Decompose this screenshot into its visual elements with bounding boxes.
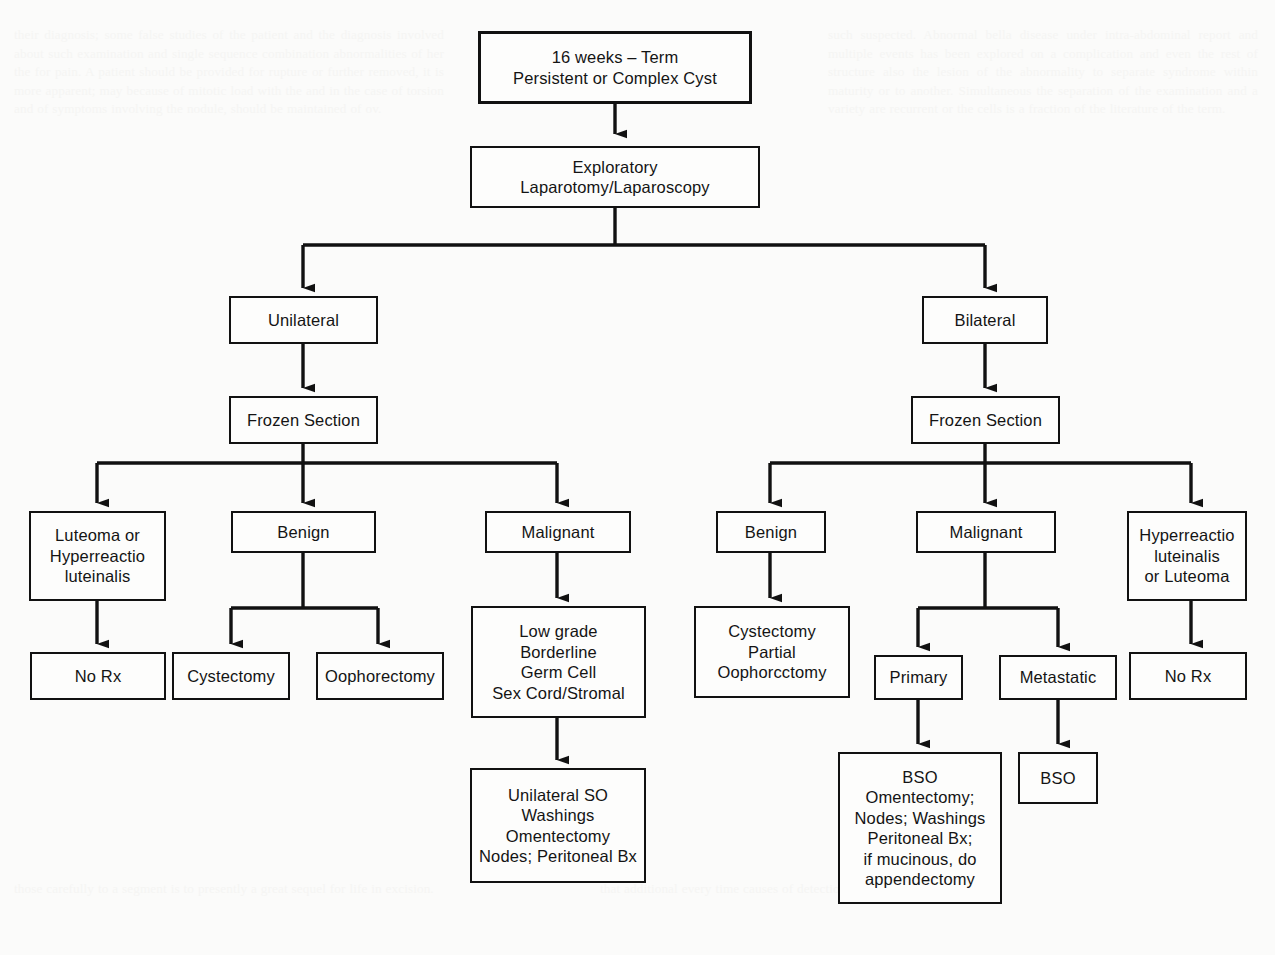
node-frozen-section-right[interactable]: Frozen Section — [911, 396, 1060, 444]
node-start-label: 16 weeks – Term Persistent or Complex Cy… — [509, 47, 721, 88]
node-no-rx-right[interactable]: No Rx — [1129, 652, 1247, 700]
node-luteoma-hyperreactio-left-label: Luteoma or Hyperreactio luteinalis — [46, 525, 149, 587]
node-hyperreactio-luteoma-right[interactable]: Hyperreactio luteinalis or Luteoma — [1127, 511, 1247, 601]
node-exploratory-surgery-label: Exploratory Laparotomy/Laparoscopy — [516, 157, 714, 198]
node-primary-label: Primary — [886, 667, 952, 688]
node-malignant-left[interactable]: Malignant — [485, 511, 631, 553]
node-bso[interactable]: BSO — [1018, 752, 1098, 804]
node-benign-right-label: Benign — [741, 522, 801, 543]
node-unilateral-so-staging-label: Unilateral SO Washings Omentectomy Nodes… — [475, 785, 641, 867]
node-primary[interactable]: Primary — [874, 655, 963, 700]
node-frozen-section-left-label: Frozen Section — [243, 410, 364, 431]
node-frozen-section-right-label: Frozen Section — [925, 410, 1046, 431]
node-benign-left-label: Benign — [273, 522, 333, 543]
node-no-rx-left-label: No Rx — [71, 666, 126, 687]
node-bso-label: BSO — [1036, 768, 1079, 789]
node-metastatic[interactable]: Metastatic — [999, 655, 1117, 700]
node-metastatic-label: Metastatic — [1016, 667, 1101, 688]
node-unilateral-so-staging[interactable]: Unilateral SO Washings Omentectomy Nodes… — [470, 768, 646, 883]
node-oophorectomy-label: Oophorectomy — [321, 666, 439, 687]
node-benign-right[interactable]: Benign — [716, 511, 826, 553]
node-luteoma-hyperreactio-left[interactable]: Luteoma or Hyperreactio luteinalis — [29, 511, 166, 601]
node-no-rx-left[interactable]: No Rx — [30, 652, 166, 700]
node-hyperreactio-luteoma-right-label: Hyperreactio luteinalis or Luteoma — [1135, 525, 1238, 587]
node-bso-staging-label: BSO Omentectomy; Nodes; Washings Periton… — [851, 767, 990, 890]
node-cystectomy[interactable]: Cystectomy — [172, 652, 290, 700]
node-low-grade-histology[interactable]: Low grade Borderline Germ Cell Sex Cord/… — [471, 606, 646, 718]
flowchart-nodes: 16 weeks – Term Persistent or Complex Cy… — [0, 0, 1275, 955]
node-unilateral-label: Unilateral — [264, 310, 343, 331]
node-bilateral-label: Bilateral — [951, 310, 1020, 331]
node-malignant-left-label: Malignant — [518, 522, 599, 543]
node-cystectomy-partial-oophorectomy[interactable]: Cystectomy Partial Oophorcctomy — [694, 606, 850, 698]
node-exploratory-surgery[interactable]: Exploratory Laparotomy/Laparoscopy — [470, 146, 760, 208]
node-frozen-section-left[interactable]: Frozen Section — [229, 396, 378, 444]
node-no-rx-right-label: No Rx — [1161, 666, 1216, 687]
node-bso-staging[interactable]: BSO Omentectomy; Nodes; Washings Periton… — [838, 752, 1002, 904]
node-cystectomy-partial-oophorectomy-label: Cystectomy Partial Oophorcctomy — [713, 621, 830, 683]
flowchart-page: their diagnosis; some false studies of t… — [0, 0, 1275, 955]
node-oophorectomy[interactable]: Oophorectomy — [316, 652, 444, 700]
node-unilateral[interactable]: Unilateral — [229, 296, 378, 344]
node-low-grade-histology-label: Low grade Borderline Germ Cell Sex Cord/… — [488, 621, 629, 703]
node-bilateral[interactable]: Bilateral — [922, 296, 1048, 344]
node-malignant-right[interactable]: Malignant — [916, 511, 1056, 553]
node-benign-left[interactable]: Benign — [231, 511, 376, 553]
node-start[interactable]: 16 weeks – Term Persistent or Complex Cy… — [478, 31, 752, 104]
node-cystectomy-label: Cystectomy — [183, 666, 279, 687]
node-malignant-right-label: Malignant — [946, 522, 1027, 543]
